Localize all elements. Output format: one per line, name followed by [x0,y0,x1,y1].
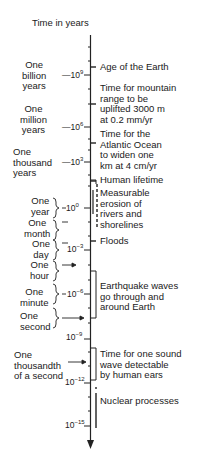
tick-label-1e3: —103 [62,156,83,167]
tick-label-1e-12: 10−12 [65,376,85,387]
event-nuclear-processes: Nuclear processes [100,396,179,407]
tick-label-1e9: —109 [62,69,83,80]
label-one-million-years: Onemillionyears [20,104,47,136]
event-human-lifetime: Human lifetime [100,175,163,186]
label-one-day: Oneday [32,239,50,260]
tick-label-1e-6: 10−6 [67,288,83,299]
label-one-billion-years: Onebillionyears [22,60,46,92]
event-atlantic-widening: Time for theAtlantic Oceanto widen onekm… [100,129,162,171]
label-one-thousand-years: Onethousandyears [13,147,52,179]
label-one-month: Onemonth [24,218,50,239]
event-mountain-uplift: Time for mountainrange to beuplifted 300… [100,83,176,125]
event-age-of-earth: Age of the Earth [100,62,169,73]
tick-label-1e-15: 10−15 [65,419,85,430]
tick-label-1e6: —106 [62,121,83,132]
event-erosion: Measurableerosion ofrivers andshorelines [100,188,150,230]
label-one-thousandth-second: Onethousandthof a second [14,350,63,382]
event-sound-wave: Time for one soundwave detectableby huma… [100,349,182,381]
label-one-year: Oneyear [31,196,49,217]
label-one-hour: Onehour [30,260,49,281]
label-one-second: Onesecond [20,311,51,332]
tick-label-1e-9: 10−9 [66,331,82,342]
tick-label-1e-3: 10−3 [67,243,83,254]
event-earthquake-waves: Earthquake wavesgo through andaround Ear… [100,281,178,313]
event-floods: Floods [100,236,129,247]
tick-label-1e0: 100 [66,202,79,213]
label-one-minute: Oneminute [20,287,49,308]
